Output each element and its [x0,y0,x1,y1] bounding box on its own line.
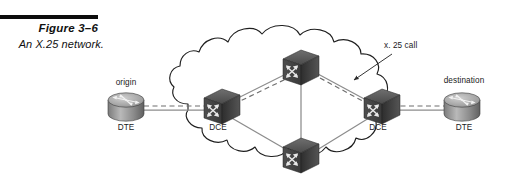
figure-container: Figure 3–6 An X.25 network. [0,0,508,194]
label-left-dce: DCE [190,123,246,132]
label-right-dce: DCE [350,123,406,132]
label-destination-dte: DTE [428,123,500,132]
router-icon-destination-dte[interactable] [444,93,480,121]
cloud-outline [170,25,388,156]
label-destination: destination [428,76,500,85]
label-origin-dte: DTE [96,123,156,132]
router-icon-origin-dte[interactable] [108,93,144,121]
label-origin: origin [96,78,156,87]
x25-cloud [170,25,388,156]
network-diagram [0,0,508,194]
label-x25-call: x. 25 call [384,41,417,50]
